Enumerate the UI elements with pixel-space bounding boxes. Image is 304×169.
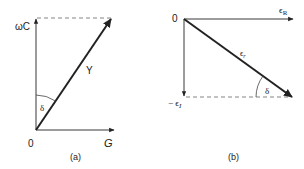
y-axis-label: ωC <box>15 21 30 32</box>
x-axis-label: G <box>104 137 113 149</box>
diagram-b: 0 ϵR ϵr δ − ϵI (b) <box>168 5 293 162</box>
x-axis-label: ϵR <box>279 5 288 17</box>
angle-arc <box>256 76 263 97</box>
diagram-a: ωC Y δ 0 G (a) <box>15 18 114 162</box>
angle-label: δ <box>265 86 269 96</box>
vector-label: ϵr <box>240 49 246 59</box>
angle-label: δ <box>40 103 44 113</box>
caption-b: (b) <box>228 152 239 162</box>
admittance-vector <box>36 19 111 130</box>
origin-label: 0 <box>28 138 34 149</box>
angle-arc <box>36 95 56 101</box>
vector-label: Y <box>86 65 93 76</box>
caption-a: (a) <box>70 152 81 162</box>
origin-label: 0 <box>172 13 178 24</box>
permittivity-vector <box>184 19 292 97</box>
y-axis-label: − ϵI <box>168 98 182 110</box>
phasor-diagrams: ωC Y δ 0 G (a) 0 ϵR ϵr δ − ϵI (b) <box>0 0 304 169</box>
